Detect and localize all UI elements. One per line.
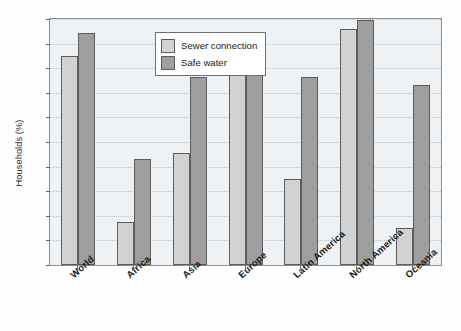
bar (134, 159, 151, 265)
x-axis-tick-mark (300, 266, 301, 270)
x-axis-tick-mark (189, 266, 190, 270)
y-axis-tick-mark (46, 44, 50, 45)
bar (78, 33, 95, 265)
bar-group (284, 19, 318, 265)
legend-item: Safe water (161, 54, 257, 71)
x-axis-tick-mark (356, 266, 357, 270)
y-axis-tick-mark (46, 68, 50, 69)
legend: Sewer connection Safe water (155, 32, 266, 76)
bar (413, 85, 430, 265)
y-axis-title: Households (%) (14, 88, 24, 218)
y-axis-tick-mark (46, 216, 50, 217)
legend-label-safe-water: Safe water (181, 57, 227, 68)
y-axis-tick-mark (46, 19, 50, 20)
bar (190, 77, 207, 265)
plot-area: Sewer connection Safe water (49, 18, 442, 266)
y-axis-tick-mark (46, 117, 50, 118)
legend-swatch-sewer-connection (161, 39, 175, 53)
bar-group (396, 19, 430, 265)
bar-group (117, 19, 151, 265)
x-axis-tick-mark (412, 266, 413, 270)
y-axis-tick-mark (46, 240, 50, 241)
x-axis-tick-mark (245, 266, 246, 270)
y-axis-tick-mark (46, 265, 50, 266)
bar-group (61, 19, 95, 265)
bar (340, 29, 357, 265)
y-axis-tick-mark (46, 167, 50, 168)
y-axis-tick-mark (46, 93, 50, 94)
legend-item: Sewer connection (161, 37, 257, 54)
bar (173, 153, 190, 265)
bar (284, 179, 301, 265)
legend-label-sewer-connection: Sewer connection (181, 40, 257, 51)
y-axis-tick-mark (46, 191, 50, 192)
chart-figure: Households (%) 0102030405060708090100 Se… (0, 0, 461, 331)
legend-swatch-safe-water (161, 56, 175, 70)
bar (61, 56, 78, 265)
bar-group (340, 19, 374, 265)
y-axis-tick-mark (46, 142, 50, 143)
x-axis-tick-mark (133, 266, 134, 270)
bar (301, 77, 318, 265)
bar (117, 222, 134, 265)
x-axis-tick-mark (77, 266, 78, 270)
bar (357, 20, 374, 265)
